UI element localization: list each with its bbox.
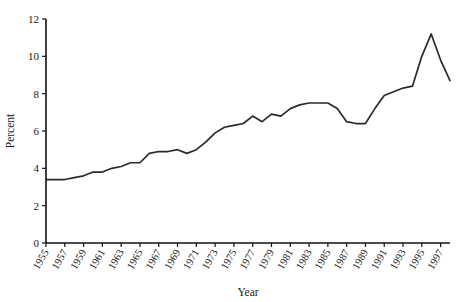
- x-axis-ticks: 1955195719591961196319651967196919711973…: [31, 243, 446, 271]
- line-chart: 024681012 Percent 1955195719591961196319…: [0, 0, 460, 302]
- x-tick-label: 1993: [388, 248, 408, 272]
- x-tick-label: 1987: [331, 248, 351, 272]
- y-tick-label: 10: [28, 50, 40, 62]
- x-tick-label: 1995: [407, 248, 427, 272]
- x-tick-label: 1983: [294, 248, 314, 272]
- x-tick-label: 1997: [425, 248, 445, 272]
- data-series-line: [46, 34, 450, 180]
- x-axis-group: 1955195719591961196319651967196919711973…: [31, 243, 450, 298]
- x-axis-title: Year: [237, 286, 258, 298]
- x-tick-label: 1989: [350, 248, 370, 272]
- x-tick-label: 1973: [200, 248, 220, 272]
- x-tick-label: 1967: [143, 248, 163, 272]
- x-tick-label: 1969: [162, 248, 182, 272]
- y-tick-label: 0: [34, 237, 40, 249]
- x-tick-label: 1981: [275, 248, 295, 272]
- x-tick-label: 1979: [256, 248, 276, 272]
- x-tick-label: 1957: [49, 248, 69, 272]
- x-tick-label: 1965: [125, 248, 145, 272]
- x-tick-label: 1955: [31, 248, 51, 272]
- y-axis-title: Percent: [4, 113, 16, 148]
- chart-container: 024681012 Percent 1955195719591961196319…: [0, 0, 460, 302]
- x-tick-label: 1959: [68, 248, 88, 272]
- y-tick-label: 6: [34, 125, 40, 137]
- x-tick-label: 1975: [219, 248, 239, 272]
- x-tick-label: 1985: [313, 248, 333, 272]
- y-tick-label: 12: [28, 13, 39, 25]
- x-tick-label: 1991: [369, 248, 389, 272]
- x-tick-label: 1961: [87, 248, 107, 272]
- y-axis-ticks: 024681012: [28, 13, 46, 249]
- y-tick-label: 8: [34, 88, 40, 100]
- y-tick-label: 2: [34, 200, 40, 212]
- y-tick-label: 4: [34, 162, 40, 174]
- x-tick-label: 1977: [237, 248, 257, 272]
- y-axis-group: 024681012 Percent: [4, 13, 46, 249]
- x-tick-label: 1971: [181, 248, 201, 272]
- x-tick-label: 1963: [106, 248, 126, 272]
